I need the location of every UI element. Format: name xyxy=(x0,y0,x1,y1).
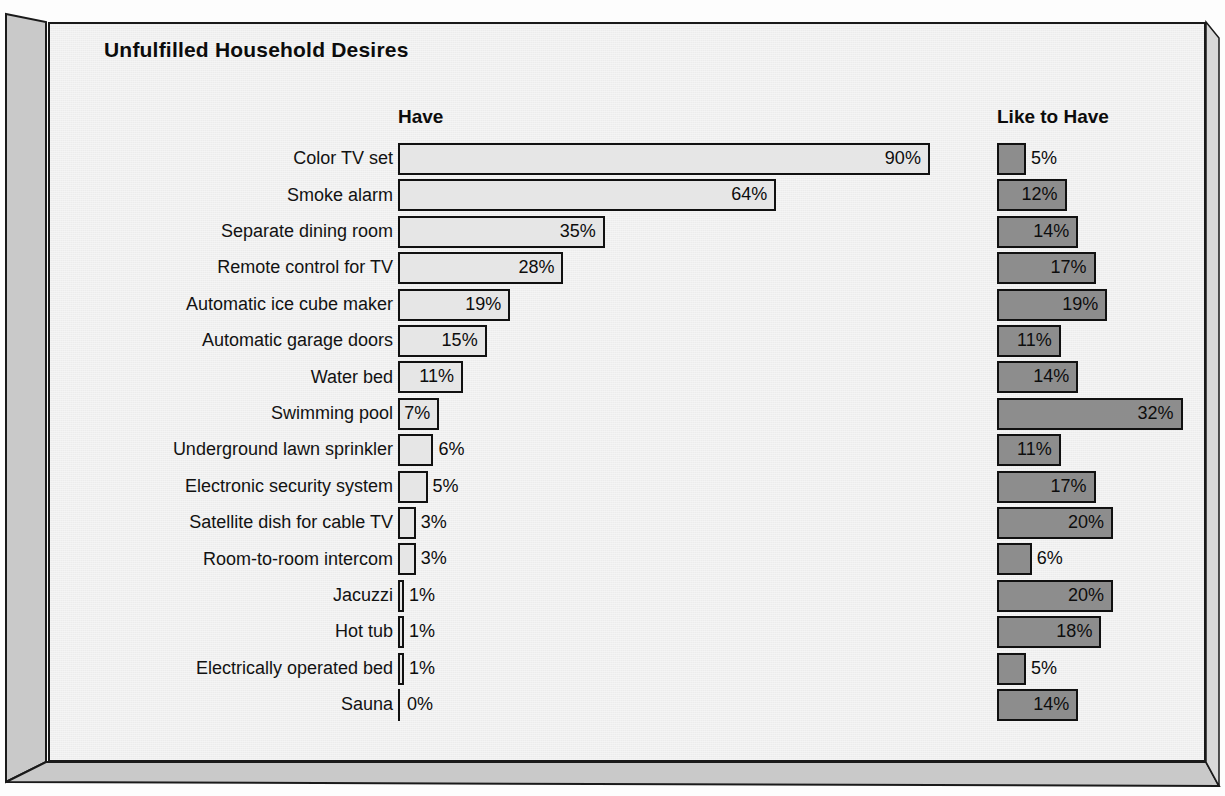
bar-have: 15% xyxy=(398,325,487,357)
bar-have: 19% xyxy=(398,289,510,321)
category-label: Underground lawn sprinkler xyxy=(173,439,393,460)
bar-value-like-to-have: 11% xyxy=(1017,439,1052,460)
bar-value-have: 28% xyxy=(518,257,554,278)
bar-value-like-to-have: 12% xyxy=(1022,184,1058,205)
chart-figure: Unfulfilled Household Desires Have Like … xyxy=(0,0,1225,796)
chart-panel: Unfulfilled Household Desires Have Like … xyxy=(48,22,1206,762)
category-label: Automatic ice cube maker xyxy=(186,294,393,315)
bar-have: 7% xyxy=(398,398,439,430)
chart-row: Automatic ice cube maker19%19% xyxy=(50,287,1204,323)
chart-row: Color TV set90%5% xyxy=(50,141,1204,177)
bar-value-like-to-have: 18% xyxy=(1056,621,1092,642)
bar-value-have: 0% xyxy=(407,694,433,715)
bars-area: Color TV set90%5%Smoke alarm64%12%Separa… xyxy=(50,24,1204,760)
bar-have: 3% xyxy=(398,507,416,539)
bar-value-like-to-have: 20% xyxy=(1068,585,1104,606)
bar-value-have: 11% xyxy=(419,366,454,387)
bar-value-have: 1% xyxy=(409,621,435,642)
bar-value-like-to-have: 11% xyxy=(1017,330,1052,351)
chart-row: Satellite dish for cable TV3%20% xyxy=(50,505,1204,541)
bar-like-to-have: 14% xyxy=(997,361,1078,393)
bar-like-to-have: 5% xyxy=(997,143,1026,175)
chart-row: Automatic garage doors15%11% xyxy=(50,323,1204,359)
chart-row: Jacuzzi1%20% xyxy=(50,578,1204,614)
bar-like-to-have: 11% xyxy=(997,325,1061,357)
bar-value-like-to-have: 20% xyxy=(1068,512,1104,533)
bar-like-to-have: 20% xyxy=(997,580,1113,612)
bar-have: 5% xyxy=(398,471,428,503)
bar-value-like-to-have: 32% xyxy=(1138,403,1174,424)
bar-have: 3% xyxy=(398,543,416,575)
bar-like-to-have: 12% xyxy=(997,179,1067,211)
bar-like-to-have: 32% xyxy=(997,398,1183,430)
bar-value-like-to-have: 19% xyxy=(1062,294,1098,315)
category-label: Color TV set xyxy=(293,148,393,169)
category-label: Satellite dish for cable TV xyxy=(189,512,393,533)
chart-row: Hot tub1%18% xyxy=(50,614,1204,650)
chart-row: Remote control for TV28%17% xyxy=(50,250,1204,286)
bar-have: 11% xyxy=(398,361,463,393)
bar-have: 64% xyxy=(398,179,776,211)
category-label: Smoke alarm xyxy=(287,185,393,206)
category-label: Electrically operated bed xyxy=(196,658,393,679)
bar-like-to-have: 17% xyxy=(997,471,1096,503)
bar-value-have: 3% xyxy=(421,548,447,569)
bar-like-to-have: 19% xyxy=(997,289,1107,321)
bar-like-to-have: 18% xyxy=(997,616,1101,648)
bar-value-like-to-have: 6% xyxy=(1037,548,1063,569)
category-label: Automatic garage doors xyxy=(202,330,393,351)
category-label: Water bed xyxy=(311,367,393,388)
bar-have: 1% xyxy=(398,580,404,612)
chart-row: Room-to-room intercom3%6% xyxy=(50,541,1204,577)
bar-value-have: 35% xyxy=(560,221,596,242)
bar-have: 28% xyxy=(398,252,563,284)
bar-like-to-have: 6% xyxy=(997,543,1032,575)
bar-value-have: 90% xyxy=(885,148,921,169)
category-label: Jacuzzi xyxy=(333,585,393,606)
bar-value-have: 6% xyxy=(438,439,464,460)
bar-have: 1% xyxy=(398,616,404,648)
category-label: Room-to-room intercom xyxy=(203,549,393,570)
bar-value-have: 64% xyxy=(731,184,767,205)
bar-value-have: 15% xyxy=(442,330,478,351)
slab-left-face xyxy=(6,14,46,782)
chart-row: Swimming pool7%32% xyxy=(50,396,1204,432)
bar-have: 0% xyxy=(398,689,400,721)
bar-like-to-have: 11% xyxy=(997,434,1061,466)
bar-value-have: 1% xyxy=(409,658,435,679)
bar-value-have: 1% xyxy=(409,585,435,606)
bar-value-like-to-have: 14% xyxy=(1033,366,1069,387)
chart-row: Electrically operated bed1%5% xyxy=(50,651,1204,687)
slab-bottom-face xyxy=(6,762,1219,786)
bar-value-like-to-have: 5% xyxy=(1031,148,1057,169)
chart-row: Sauna0%14% xyxy=(50,687,1204,723)
chart-row: Electronic security system5%17% xyxy=(50,469,1204,505)
bar-value-like-to-have: 17% xyxy=(1051,476,1087,497)
bar-value-like-to-have: 17% xyxy=(1051,257,1087,278)
bar-like-to-have: 14% xyxy=(997,216,1078,248)
bar-value-have: 5% xyxy=(433,476,459,497)
bar-value-like-to-have: 5% xyxy=(1031,658,1057,679)
category-label: Hot tub xyxy=(335,621,393,642)
bar-have: 1% xyxy=(398,653,404,685)
category-label: Sauna xyxy=(341,694,393,715)
bar-like-to-have: 17% xyxy=(997,252,1096,284)
bar-value-like-to-have: 14% xyxy=(1033,221,1069,242)
bar-value-like-to-have: 14% xyxy=(1033,694,1069,715)
bar-value-have: 7% xyxy=(404,403,430,424)
bar-like-to-have: 20% xyxy=(997,507,1113,539)
bar-have: 90% xyxy=(398,143,930,175)
bar-have: 6% xyxy=(398,434,433,466)
slab-right-face xyxy=(1206,22,1219,786)
category-label: Separate dining room xyxy=(221,221,393,242)
bar-like-to-have: 5% xyxy=(997,653,1026,685)
chart-row: Separate dining room35%14% xyxy=(50,214,1204,250)
chart-row: Smoke alarm64%12% xyxy=(50,177,1204,213)
category-label: Remote control for TV xyxy=(217,257,393,278)
chart-row: Water bed11%14% xyxy=(50,359,1204,395)
chart-row: Underground lawn sprinkler6%11% xyxy=(50,432,1204,468)
bar-like-to-have: 14% xyxy=(997,689,1078,721)
category-label: Swimming pool xyxy=(271,403,393,424)
bar-value-have: 19% xyxy=(465,294,501,315)
bar-have: 35% xyxy=(398,216,605,248)
